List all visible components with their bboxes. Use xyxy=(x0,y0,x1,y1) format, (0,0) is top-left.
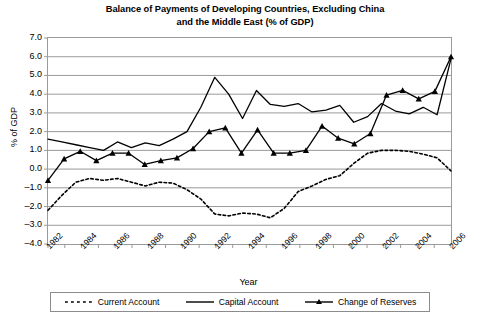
series-marker xyxy=(77,148,83,154)
legend-entry: Current Account xyxy=(64,297,160,307)
y-tick-label: 1.0 xyxy=(0,144,42,154)
x-axis-tick-labels: 1982198419861988199019921994199619982000… xyxy=(47,244,457,280)
series-line xyxy=(48,150,451,217)
legend-swatch-icon xyxy=(64,297,94,307)
series-line xyxy=(48,57,451,181)
x-axis-title: Year xyxy=(47,277,450,287)
series-marker xyxy=(432,88,438,94)
y-tick-label: 7.0 xyxy=(0,32,42,42)
y-tick-label: 5.0 xyxy=(0,69,42,79)
series-marker xyxy=(319,123,325,129)
y-tick-label: –4.0 xyxy=(0,238,42,248)
chart-title-line-2: and the Middle East (% of GDP) xyxy=(55,16,435,29)
legend-swatch-icon xyxy=(185,297,215,307)
y-tick-label: 0.0 xyxy=(0,163,42,173)
y-tick-label: 4.0 xyxy=(0,88,42,98)
legend-entry: Capital Account xyxy=(185,297,279,307)
y-tick-label: 6.0 xyxy=(0,51,42,61)
series-marker xyxy=(416,96,422,102)
series-marker xyxy=(254,127,260,133)
y-tick-label: –3.0 xyxy=(0,219,42,229)
legend-swatch-icon xyxy=(304,297,334,307)
series-line xyxy=(48,59,451,151)
y-axis-tick-labels: 7.06.05.04.03.02.01.00.0–1.0–2.0–3.0–4.0 xyxy=(0,30,42,250)
series-marker xyxy=(61,156,67,162)
series-marker xyxy=(367,130,373,136)
chart-title-line-1: Balance of Payments of Developing Countr… xyxy=(55,3,435,16)
legend-label: Change of Reserves xyxy=(338,297,416,307)
chart-legend: Current AccountCapital AccountChange of … xyxy=(50,292,430,312)
y-tick-label: 2.0 xyxy=(0,126,42,136)
legend-label: Capital Account xyxy=(219,297,279,307)
y-tick-label: 3.0 xyxy=(0,107,42,117)
chart-title: Balance of Payments of Developing Countr… xyxy=(55,3,435,28)
legend-label: Current Account xyxy=(98,297,160,307)
legend-entry: Change of Reserves xyxy=(304,297,416,307)
series-marker xyxy=(93,158,99,164)
plot-area xyxy=(47,37,452,245)
y-tick-label: –1.0 xyxy=(0,182,42,192)
series-marker xyxy=(222,125,228,131)
y-tick-label: –2.0 xyxy=(0,201,42,211)
data-series-layer xyxy=(48,38,451,244)
series-marker xyxy=(448,54,454,60)
series-marker xyxy=(400,87,406,93)
chart-figure: Balance of Payments of Developing Countr… xyxy=(0,0,481,317)
